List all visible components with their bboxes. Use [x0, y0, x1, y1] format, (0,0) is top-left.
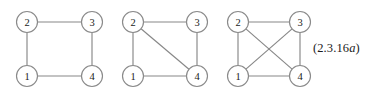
graph-node-label: 1 — [24, 71, 29, 82]
graph-node: 1 — [123, 66, 144, 87]
graph-2: 2314 — [123, 12, 208, 87]
graph-node-label: 3 — [194, 17, 199, 28]
graph-node: 3 — [82, 12, 103, 33]
graph-node: 1 — [17, 66, 38, 87]
graph-node: 4 — [290, 66, 311, 87]
graph-1: 2314 — [17, 12, 103, 87]
graph-node-label: 4 — [194, 71, 200, 82]
equation-number-prefix: (2.3.16 — [313, 41, 349, 55]
equation-number-closing: ) — [355, 41, 359, 55]
graph-node: 3 — [290, 12, 311, 33]
graph-node-label: 3 — [297, 17, 302, 28]
graph-node-label: 3 — [89, 17, 94, 28]
graph-node-label: 2 — [130, 17, 135, 28]
graph-node: 2 — [228, 12, 249, 33]
graph-node: 3 — [187, 12, 208, 33]
figure-canvas: 231423142314 (2.3.16a) — [0, 0, 380, 98]
graph-node-label: 4 — [297, 71, 303, 82]
graph-node: 1 — [228, 66, 249, 87]
graph-edge — [141, 29, 189, 69]
graph-node-label: 2 — [24, 17, 29, 28]
graph-node: 4 — [82, 66, 103, 87]
graph-node-label: 1 — [130, 71, 135, 82]
graph-node-label: 1 — [235, 71, 240, 82]
graph-node: 2 — [17, 12, 38, 33]
graph-3: 2314 — [228, 12, 311, 87]
graph-node-label: 2 — [235, 17, 240, 28]
graph-node: 2 — [123, 12, 144, 33]
graph-node: 4 — [187, 66, 208, 87]
equation-number: (2.3.16a) — [313, 41, 360, 56]
graph-node-label: 4 — [89, 71, 95, 82]
